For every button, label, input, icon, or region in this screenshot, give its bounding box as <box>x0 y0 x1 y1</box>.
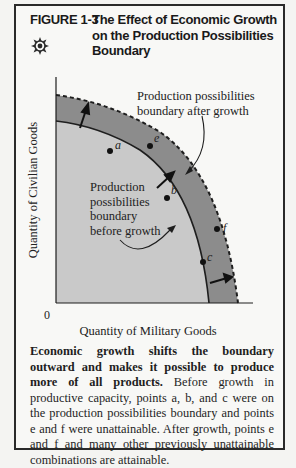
annotation-line: before growth <box>90 224 160 239</box>
figure-caption: Economic growth shifts the boundary outw… <box>30 344 274 468</box>
origin-label: 0 <box>44 308 50 323</box>
annotation-line: boundary after growth <box>137 104 255 119</box>
annotation-line: Production <box>90 180 160 195</box>
x-axis-label: Quantity of Military Goods <box>0 324 296 339</box>
label-b: b <box>171 183 177 198</box>
point-b <box>164 195 170 201</box>
point-a <box>107 148 113 154</box>
label-c: c <box>207 250 212 265</box>
annotation-after-growth: Production possibilities boundary after … <box>137 89 255 118</box>
annotation-line: possibilities <box>90 195 160 210</box>
label-a: a <box>115 138 121 153</box>
label-e: e <box>154 131 159 146</box>
annotation-line: Production possibilities <box>137 89 255 104</box>
label-f: f <box>223 221 226 236</box>
point-e <box>147 143 153 149</box>
point-c <box>200 259 206 265</box>
annotation-line: boundary <box>90 209 160 224</box>
y-axis-label: Quantity of Civilian Goods <box>26 122 41 258</box>
point-f <box>214 226 220 232</box>
annotation-before-growth: Production possibilities boundary before… <box>90 180 160 238</box>
